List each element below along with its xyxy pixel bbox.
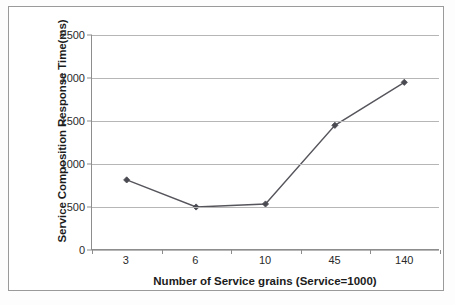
chart-screenshot: Service Composition Response Time(ms) 05… [0, 0, 455, 305]
y-tick-mark [87, 78, 92, 79]
y-tick-mark [87, 121, 92, 122]
x-tick-label: 6 [192, 254, 198, 266]
x-tick-label: 45 [328, 254, 340, 266]
data-point-marker [401, 79, 407, 85]
x-tick-mark [440, 250, 441, 254]
y-tick-label: 1000 [61, 158, 85, 170]
x-tick-mark [301, 250, 302, 254]
series-line-chart [92, 35, 439, 250]
gridline-y [92, 121, 439, 122]
figure-frame: Service Composition Response Time(ms) 05… [8, 6, 444, 291]
gridline-y [92, 164, 439, 165]
data-point-marker [124, 177, 130, 183]
gridline-y [92, 35, 439, 36]
y-tick-label: 2500 [61, 29, 85, 41]
y-axis-title: Service Composition Response Time(ms) [56, 6, 68, 256]
series-line [127, 82, 405, 207]
gridline-y [92, 207, 439, 208]
y-tick-label: 2000 [61, 72, 85, 84]
x-tick-label: 140 [395, 254, 413, 266]
gridline-y [92, 78, 439, 79]
y-tick-mark [87, 164, 92, 165]
y-tick-mark [87, 207, 92, 208]
y-tick-label: 1500 [61, 115, 85, 127]
x-axis-title: Number of Service grains (Service=1000) [91, 275, 439, 287]
x-axis-line [92, 249, 439, 250]
x-tick-mark [370, 250, 371, 254]
x-tick-mark [162, 250, 163, 254]
x-tick-label: 10 [259, 254, 271, 266]
plot-area: 05001000150020002500 [91, 35, 439, 250]
y-tick-label: 500 [67, 201, 85, 213]
y-tick-mark [87, 35, 92, 36]
gridline-y [92, 250, 439, 251]
x-tick-mark [231, 250, 232, 254]
y-tick-label: 0 [79, 244, 85, 256]
x-tick-label: 3 [123, 254, 129, 266]
x-tick-mark [92, 250, 93, 254]
